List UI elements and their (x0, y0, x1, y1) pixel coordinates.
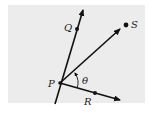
label-theta: θ (82, 75, 88, 86)
label-q: Q (64, 22, 72, 33)
point-p-dot (58, 81, 62, 85)
label-s: S (131, 19, 138, 30)
diagram-canvas: Q S P R θ (0, 0, 149, 114)
angle-theta-arc (75, 73, 78, 88)
point-r-dot (93, 91, 97, 95)
label-r: R (83, 96, 92, 107)
point-q-dot (75, 27, 79, 31)
point-s-dot (124, 23, 129, 28)
geometry-figure: Q S P R θ (0, 0, 149, 114)
label-p: P (47, 78, 55, 89)
